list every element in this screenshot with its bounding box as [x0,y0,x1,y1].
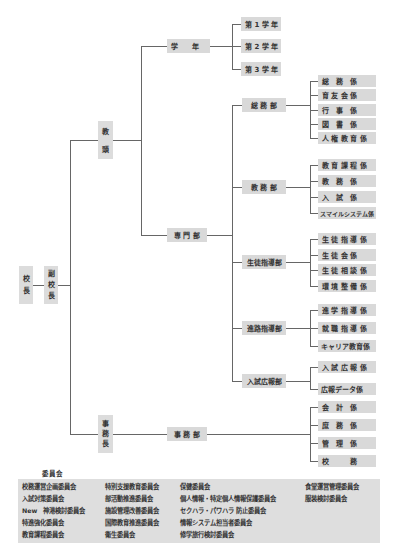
grade-3-box: 第 3 学 年 [241,62,281,76]
committee-item: 特別支援教育委員会 [105,482,159,491]
connector [33,285,44,286]
dept-student-guidance: 生徒指導部 [242,255,286,269]
section-label: 教 育 課 程 係 [322,160,367,170]
connector [310,95,318,96]
grade-3-label: 第 3 学 年 [245,64,278,74]
section-box: 管 理 係 [318,437,376,449]
connector [310,81,318,82]
connector [141,235,167,236]
section-label: 入 試 係 [322,192,357,202]
connector [310,255,318,256]
connector [310,443,318,444]
connector [310,239,318,240]
section-label: 教 務 係 [322,176,357,186]
connector [232,187,242,188]
grade-2-label: 第 2 学 年 [245,41,278,51]
connector [310,110,318,111]
teaching-head-box: 教 頭 [98,121,113,159]
office-dept-label: 事 務 部 [174,429,200,439]
dept-label: 生徒指導部 [247,257,282,267]
connector [141,46,142,236]
section-label: 就 職 指 導 係 [322,323,367,333]
section-label: 広報データ係 [321,384,363,394]
admin-head-label: 事 務 長 [102,419,109,449]
committee-item: 特進強化委員会 [22,518,64,527]
connector [286,328,310,329]
section-label: 総 務 係 [322,76,357,86]
section-label: 図 書 係 [322,119,357,129]
dept-career-guidance: 進路指導部 [242,321,286,335]
committee-item: 国際教育推進委員会 [105,518,159,527]
committee-item: 食堂運営管理委員会 [305,482,359,491]
committee-item: 修学旅行検討委員会 [180,530,234,539]
section-box: 就 職 指 導 係 [318,322,376,334]
section-label: 会 計 係 [322,402,357,412]
connector [58,285,70,286]
section-box: 教 育 課 程 係 [318,159,376,171]
connector [232,69,241,70]
section-box: 生 徒 相 談 係 [318,264,376,276]
connector [310,328,318,329]
connector [310,138,318,139]
section-box: 図 書 係 [318,118,376,130]
connector [113,434,167,435]
section-label: 庶 務 係 [322,420,357,430]
section-box: 教 務 係 [318,175,376,187]
committees-title: 委員会 [42,468,63,478]
committee-item: セクハラ・パワハラ 防止委員会 [180,506,266,515]
connector [286,105,310,106]
section-box: 環 境 整 備 係 [318,280,376,292]
committee-item: 情報システム担当者委員会 [180,518,252,527]
connector [286,381,310,382]
committee-item: 服装検討委員会 [305,494,347,503]
office-dept-box: 事 務 部 [167,427,207,441]
connector [207,434,310,435]
connector [286,262,310,263]
section-label: 生 徒 会 係 [322,250,357,260]
vice-principal-box: 副 校 長 [44,266,58,304]
committee-item: 入試対策委員会 [22,494,64,503]
specialized-label: 専 門 部 [174,230,200,240]
committee-item: 施設管理改善委員会 [105,506,159,515]
section-label: 人 権 教 育 係 [322,133,367,143]
section-box: 入 試 係 [318,191,376,203]
grade-2-box: 第 2 学 年 [241,39,281,53]
committee-item: 校務運営企画委員会 [22,482,76,491]
connector [310,367,318,368]
connector [310,239,311,286]
dept-academic-affairs: 教 務 部 [242,180,286,194]
section-box: キャリア教育係 [318,340,376,352]
section-label: 育 友 会 係 [322,90,357,100]
connector [310,181,318,182]
section-label: 校 務 [322,456,357,466]
grade-box: 学 年 [167,39,210,53]
committee-item: 部活動推進委員会 [105,494,153,503]
connector [310,310,318,311]
connector [310,124,318,125]
section-box: 広報データ係 [318,383,376,395]
dept-label: 入試広報部 [247,376,282,386]
dept-admissions-pr: 入試広報部 [242,374,286,388]
vice-principal-label: 副 校 長 [48,269,55,302]
connector [70,140,71,435]
connector [310,197,318,198]
connector [310,407,318,408]
dept-label: 総 務 部 [251,100,277,110]
section-label: 入 試 広 報 係 [322,362,367,372]
section-label: 管 理 係 [322,438,357,448]
committee-item: New 神港検討委員会 [22,506,85,515]
section-box: 庶 務 係 [318,419,376,431]
section-box: 生 徒 会 係 [318,249,376,261]
admin-head-box: 事 務 長 [98,415,113,453]
connector [310,165,318,166]
section-box: スマイルシステム係 [318,207,376,219]
teaching-head-label: 教 頭 [102,123,109,159]
specialized-box: 専 門 部 [167,228,207,242]
dept-general-affairs: 総 務 部 [242,98,286,112]
committee-item: 保健委員会 [180,482,210,491]
connector [232,105,242,106]
connector [207,235,232,236]
connector [232,105,233,382]
committee-item: 教育課程委員会 [22,530,64,539]
section-label: 行 事 係 [322,105,357,115]
